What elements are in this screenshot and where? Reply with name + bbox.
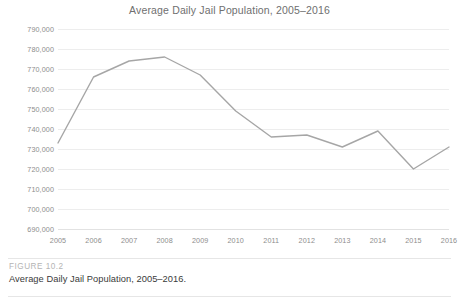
y-tick-label: 690,000 [27,225,54,234]
chart-panel: Average Daily Jail Population, 2005–2016… [0,0,459,258]
x-tick-label: 2015 [405,236,421,245]
figure-container: Average Daily Jail Population, 2005–2016… [0,0,459,301]
y-tick-label: 780,000 [27,45,54,54]
x-tick-label: 2012 [299,236,315,245]
y-tick-label: 790,000 [27,25,54,34]
x-tick-label: 2006 [85,236,101,245]
chart-title: Average Daily Jail Population, 2005–2016 [0,4,459,16]
y-tick-label: 740,000 [27,125,54,134]
y-tick-label: 730,000 [27,145,54,154]
y-tick-label: 710,000 [27,185,54,194]
x-axis: 2005200620072008200920102011201220132014… [58,236,449,250]
caption-block: FIGURE 10.2 Average Daily Jail Populatio… [0,258,459,301]
line-series-path [58,57,449,169]
caption-divider-bottom [8,296,451,297]
y-tick-label: 760,000 [27,85,54,94]
figure-number-label: FIGURE 10.2 [9,262,64,271]
line-series-svg [58,29,449,229]
figure-caption-text: Average Daily Jail Population, 2005–2016… [9,274,186,284]
y-tick-label: 720,000 [27,165,54,174]
x-tick-label: 2011 [263,236,279,245]
caption-divider-top [8,258,451,259]
x-axis-line [58,229,449,230]
y-tick-label: 700,000 [27,205,54,214]
y-axis: 790,000780,000770,000760,000750,000740,0… [0,29,54,229]
x-tick-label: 2016 [441,236,457,245]
x-tick-label: 2010 [228,236,244,245]
y-tick-label: 750,000 [27,105,54,114]
plot-area [58,29,449,229]
x-tick-label: 2014 [370,236,386,245]
x-tick-label: 2009 [192,236,208,245]
x-tick-label: 2005 [50,236,66,245]
x-tick-label: 2013 [334,236,350,245]
x-tick-label: 2008 [156,236,172,245]
x-tick-label: 2007 [121,236,137,245]
y-tick-label: 770,000 [27,65,54,74]
